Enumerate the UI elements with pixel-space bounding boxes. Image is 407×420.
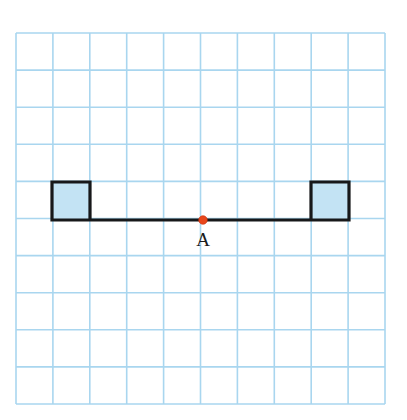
right-square-fill [311,182,349,220]
left-square-fill [52,182,90,220]
geometry-figure: A [0,0,407,420]
point-a-label: A [196,229,210,250]
point-a-marker [199,216,208,225]
figure-canvas: A [0,0,407,420]
